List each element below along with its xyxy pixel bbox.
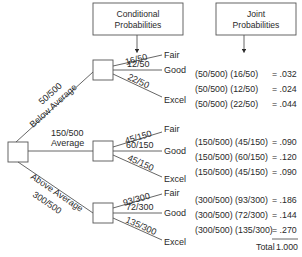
- node-above-average: [93, 203, 113, 223]
- average-label: Average: [51, 138, 84, 148]
- joint-header-line2: Probabilities: [233, 20, 280, 30]
- prob-avg-good: 60/150: [126, 140, 154, 150]
- joint-probabilities-table: (50/500) (16/50) = .032 (50/500) (12/50)…: [195, 69, 298, 252]
- joint-value: = .090: [272, 137, 297, 147]
- joint-expr: (50/500) (22/50): [195, 99, 258, 109]
- joint-value: = .032: [272, 69, 297, 79]
- root-node: [8, 142, 28, 162]
- joint-expr: (50/500) (12/50): [195, 84, 258, 94]
- joint-expr: (300/500) (72/300): [195, 210, 268, 220]
- outcome-aa-fair: Fair: [164, 188, 180, 198]
- prob-aa-good: 72/300: [126, 202, 154, 212]
- node-below-average: [93, 60, 113, 80]
- joint-value: = .120: [272, 152, 297, 162]
- joint-value: = .186: [272, 195, 297, 205]
- joint-probabilities-box: [216, 3, 296, 35]
- joint-value: = .044: [272, 99, 297, 109]
- outcome-aa-good: Good: [164, 208, 186, 218]
- joint-expr: (150/500) (60/150): [195, 152, 268, 162]
- joint-value: = .090: [272, 167, 297, 177]
- outcome-avg-excel: Excel: [164, 174, 186, 184]
- conditional-header-line1: Conditional: [117, 9, 160, 19]
- joint-expr: (150/500) (45/150): [195, 137, 268, 147]
- joint-value: = .024: [272, 84, 297, 94]
- prob-aa-excel: 135/300: [124, 215, 158, 237]
- conditional-probabilities-box: [93, 3, 183, 35]
- total-label: Total: [256, 242, 275, 252]
- joint-value: = .144: [272, 210, 297, 220]
- joint-value: = .270: [272, 225, 297, 235]
- outcome-avg-fair: Fair: [164, 124, 180, 134]
- outcome-ba-good: Good: [164, 65, 186, 75]
- outcome-ba-excel: Excel: [164, 95, 186, 105]
- prob-ba-excel: 22/50: [126, 72, 151, 91]
- joint-expr: (50/500) (16/50): [195, 69, 258, 79]
- probability-tree-diagram: Conditional Probabilities Joint Probabil…: [0, 0, 302, 257]
- outcome-ba-fair: Fair: [164, 50, 180, 60]
- prob-ba-good: 12/50: [127, 59, 150, 69]
- prob-avg-excel: 45/150: [126, 153, 155, 173]
- joint-expr: (150/500) (45/150): [195, 167, 268, 177]
- node-average: [93, 141, 113, 161]
- joint-header-line1: Joint: [247, 9, 266, 19]
- joint-expr: (300/500) (93/300): [195, 195, 268, 205]
- outcome-avg-good: Good: [164, 146, 186, 156]
- joint-expr: (300/500) (135/300): [195, 225, 273, 235]
- outcome-aa-excel: Excel: [164, 237, 186, 247]
- conditional-header-line2: Probabilities: [115, 20, 162, 30]
- average-prob: 150/500: [51, 128, 84, 138]
- total-value: 1.000: [276, 242, 298, 252]
